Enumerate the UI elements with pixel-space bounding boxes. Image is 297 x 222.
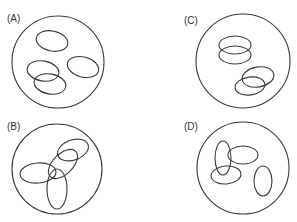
venn-figure: (A)(C)(B)(D) [0, 0, 297, 222]
universe-circle [12, 16, 104, 108]
panel-label: (B) [7, 121, 20, 132]
set-ellipse [65, 53, 101, 81]
set-ellipse [26, 58, 61, 83]
panel-a: (A) [7, 13, 104, 108]
set-ellipse [47, 169, 67, 209]
set-ellipse [254, 166, 272, 196]
universe-circle [197, 122, 289, 214]
set-ellipse [219, 36, 251, 54]
panel-label: (C) [184, 15, 198, 26]
panel-label: (A) [7, 13, 20, 24]
set-ellipse [228, 146, 258, 164]
panel-label: (D) [184, 121, 198, 132]
panel-d: (D) [184, 121, 289, 214]
set-ellipse [34, 28, 69, 54]
set-ellipse [33, 71, 68, 96]
set-ellipse [241, 64, 276, 89]
panel-b: (B) [7, 121, 102, 214]
universe-circle [196, 14, 290, 108]
set-ellipse [210, 165, 241, 186]
panel-c: (C) [184, 14, 290, 108]
set-ellipse [219, 46, 251, 64]
